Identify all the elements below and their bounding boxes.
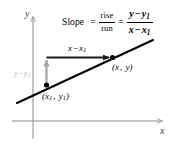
rise-arrow-label: y−y1 — [14, 70, 31, 79]
point-1-label: (x1, y1) — [42, 92, 69, 102]
point-1-marker — [44, 82, 49, 87]
fraction-denominator-run: run — [99, 24, 115, 34]
rise-over-run-fraction: rise run — [99, 11, 116, 33]
numerator-y1-subscript: 1 — [146, 13, 150, 21]
point-2-label: (x, y) — [112, 63, 133, 72]
formula-equals-first: = — [90, 17, 95, 27]
pt2-close-paren: ) — [130, 62, 133, 72]
point-2-marker — [110, 55, 115, 60]
pt1-close-paren: ) — [66, 91, 69, 101]
fraction-bar — [127, 22, 153, 23]
run-label-x1-subscript: 1 — [83, 46, 86, 53]
y-axis-label: y — [25, 9, 29, 19]
slope-formula-diagram: y x Slope = rise run = y−y1 x−x1 x−x1 y−… — [0, 0, 176, 147]
fraction-numerator-rise: rise — [99, 11, 116, 21]
formula-word-slope: Slope — [62, 17, 84, 27]
formula-equals-second: = — [118, 17, 123, 27]
slope-formula: Slope = rise run = y−y1 x−x1 — [62, 8, 153, 37]
denominator-x1-subscript: 1 — [147, 29, 151, 37]
fraction-denominator-expression: x−x1 — [127, 24, 153, 37]
fraction-numerator-expression: y−y1 — [127, 8, 152, 21]
rise-label-y1-subscript: 1 — [28, 72, 31, 78]
denominator-minus: − — [134, 24, 142, 35]
x-axis-label: x — [160, 126, 164, 136]
run-arrow-label: x−x1 — [68, 44, 86, 54]
algebraic-fraction: y−y1 x−x1 — [127, 8, 153, 37]
numerator-minus: − — [134, 8, 142, 19]
